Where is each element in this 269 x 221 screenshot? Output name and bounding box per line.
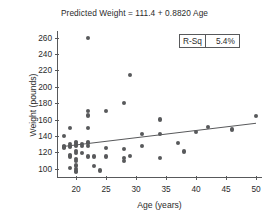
r-squared-value: 5.4% (206, 35, 239, 47)
y-axis-tick-label: 240 (38, 49, 52, 59)
data-point (176, 141, 180, 145)
data-point (140, 132, 144, 136)
r-squared-label: R-Sq (180, 35, 206, 47)
data-point (86, 144, 90, 148)
data-point (158, 156, 162, 160)
y-axis-tick (55, 169, 59, 170)
data-point (86, 36, 90, 40)
chart-title: Predicted Weight = 111.4 + 0.8820 Age (0, 8, 269, 18)
x-axis-tick (196, 176, 197, 180)
x-axis-tick-label: 30 (131, 184, 140, 194)
x-axis-tick (136, 176, 137, 180)
y-axis-tick (55, 152, 59, 153)
y-axis-title-container: Weight (pounds) (0, 31, 14, 178)
data-point (128, 73, 132, 77)
data-point (74, 159, 78, 163)
x-axis-tick-label: 45 (221, 184, 230, 194)
x-axis-tick-label: 20 (71, 184, 80, 194)
data-point (92, 154, 96, 158)
y-axis-tick (55, 136, 59, 137)
data-point (62, 134, 66, 138)
y-axis-tick (55, 120, 59, 121)
x-axis-tick-label: 40 (191, 184, 200, 194)
data-point (86, 113, 90, 117)
y-axis-tick-label: 200 (38, 82, 52, 92)
data-point (68, 145, 72, 149)
y-axis-tick (55, 70, 59, 71)
data-point (74, 144, 78, 148)
y-axis-tick-label: 180 (38, 98, 52, 108)
data-point (86, 126, 90, 130)
data-point (68, 154, 72, 158)
y-axis-tick (55, 54, 59, 55)
x-axis-tick (226, 176, 227, 180)
data-point (122, 159, 126, 163)
data-point (254, 114, 258, 118)
plot-inner (58, 31, 262, 177)
data-point (122, 147, 126, 151)
data-point (104, 154, 108, 158)
data-point (158, 132, 162, 136)
y-axis-tick-label: 260 (38, 33, 52, 43)
data-point (230, 127, 234, 131)
r-squared-annotation-box: R-Sq 5.4% (179, 34, 240, 48)
y-axis-tick-label: 100 (38, 164, 52, 174)
x-axis-tick (256, 176, 257, 180)
data-point (80, 144, 84, 148)
data-point (206, 125, 210, 129)
data-point (104, 146, 108, 150)
x-axis-tick (106, 176, 107, 180)
y-axis-tick (55, 38, 59, 39)
data-point (194, 130, 198, 134)
data-point (74, 151, 78, 155)
x-axis-title: Age (years) (57, 200, 262, 210)
y-axis-tick (55, 103, 59, 104)
x-axis-tick-label: 35 (161, 184, 170, 194)
data-point (68, 166, 72, 170)
data-point (92, 164, 96, 168)
data-point (122, 101, 126, 105)
y-axis-tick-label: 220 (38, 65, 52, 75)
y-axis-tick-label: 160 (38, 115, 52, 125)
plot-area: 1001201401601802002202402602025303540455… (57, 31, 262, 178)
data-point (140, 144, 144, 148)
y-axis-tick (55, 87, 59, 88)
data-point (86, 154, 90, 158)
data-point (62, 145, 66, 149)
x-axis-tick-label: 25 (101, 184, 110, 194)
y-axis-tick-label: 120 (38, 147, 52, 157)
y-axis-title: Weight (pounds) (28, 73, 38, 136)
x-axis-tick (76, 176, 77, 180)
y-axis-tick-label: 140 (38, 131, 52, 141)
data-point (158, 117, 162, 121)
data-point (182, 149, 186, 153)
x-axis-tick (166, 176, 167, 180)
data-point (104, 109, 108, 113)
scatter-plot-figure: Predicted Weight = 111.4 + 0.8820 Age We… (0, 0, 269, 221)
data-point (80, 151, 84, 155)
data-point (74, 170, 78, 174)
x-axis-tick-label: 50 (251, 184, 260, 194)
data-point (128, 154, 132, 158)
data-point (98, 168, 102, 172)
data-point (68, 126, 72, 130)
